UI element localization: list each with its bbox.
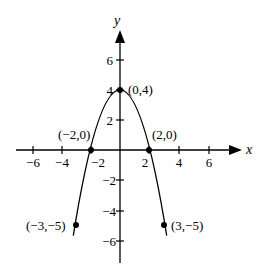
x-axis-arrow-icon <box>229 145 242 155</box>
point-label-right-root: (2,0) <box>152 127 177 142</box>
y-tick-label: 6 <box>107 53 114 68</box>
x-axis-label: x <box>245 142 253 157</box>
parabola-graph: −6 −4 −2 2 4 6 6 4 2 −2 −4 −6 x y (0,4) … <box>0 0 262 278</box>
x-tick-label: −6 <box>26 155 40 170</box>
x-tick-label: 4 <box>176 155 183 170</box>
y-axis-label: y <box>112 13 121 28</box>
point-left-root <box>88 147 94 153</box>
point-label-left-end: (−3,−5) <box>26 218 66 233</box>
y-tick-label: 2 <box>107 113 114 128</box>
point-label-right-end: (3,−5) <box>171 218 203 233</box>
x-tick-label: 2 <box>142 155 149 170</box>
x-axis <box>16 145 242 155</box>
point-right-end <box>161 222 167 228</box>
point-right-root <box>146 147 152 153</box>
x-tick-label: −2 <box>91 155 105 170</box>
point-vertex <box>117 87 123 93</box>
y-axis-arrow-icon <box>115 30 125 43</box>
y-axis <box>115 30 125 263</box>
y-tick-label: −2 <box>102 173 116 188</box>
point-label-left-root: (−2,0) <box>58 127 90 142</box>
y-tick-label: −6 <box>102 234 116 249</box>
x-tick-label: −4 <box>55 155 69 170</box>
x-tick-label: 6 <box>206 155 213 170</box>
point-label-vertex: (0,4) <box>128 82 153 97</box>
point-left-end <box>73 222 79 228</box>
y-tick-label: −4 <box>102 204 116 219</box>
